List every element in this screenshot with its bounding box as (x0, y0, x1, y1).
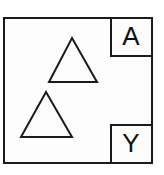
label-box-a-text: A (122, 21, 140, 51)
line-drawing-svg: A Y (0, 0, 164, 175)
label-box-y-text: Y (122, 128, 139, 158)
figure-canvas: A Y (0, 0, 164, 175)
